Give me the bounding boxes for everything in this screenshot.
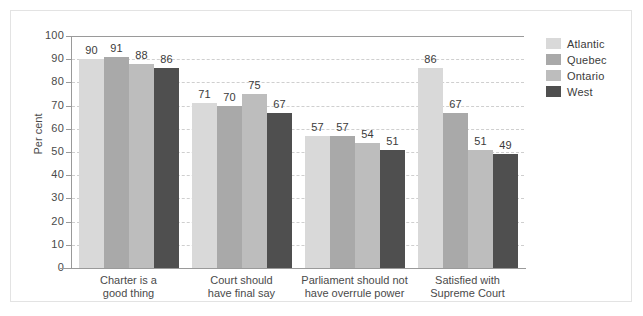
- y-tick-mark-20: [66, 222, 72, 223]
- bar-quebec-4[interactable]: 67: [443, 113, 468, 268]
- bar-group-2: 71707567: [192, 36, 292, 268]
- bar-quebec-1[interactable]: 91: [104, 57, 129, 268]
- x-axis-line: [60, 268, 526, 269]
- legend-label: Quebec: [567, 54, 607, 66]
- bar-value-label: 86: [416, 53, 446, 65]
- y-tick-mark-70: [66, 106, 72, 107]
- bar-west-1[interactable]: 86: [154, 68, 179, 268]
- y-tick-label-0: 0: [30, 261, 64, 273]
- legend-item-west[interactable]: West: [546, 84, 630, 99]
- legend-swatch-icon-west: [546, 86, 561, 97]
- bar-atlantic-1[interactable]: 90: [79, 59, 104, 268]
- bar-ontario-3[interactable]: 54: [355, 143, 380, 268]
- bar-ontario-1[interactable]: 88: [129, 64, 154, 268]
- bar-group-4: 86675149: [418, 36, 518, 268]
- bar-value-label: 67: [441, 98, 471, 110]
- legend-swatch-icon-quebec: [546, 54, 561, 65]
- bar-value-label: 75: [240, 79, 270, 91]
- bar-value-label: 70: [215, 91, 245, 103]
- bar-quebec-2[interactable]: 70: [217, 106, 242, 268]
- bar-group-1: 90918886: [79, 36, 179, 268]
- chart-figure: 1009080706050403020100 Per cent 90918886…: [0, 0, 643, 316]
- bar-atlantic-2[interactable]: 71: [192, 103, 217, 268]
- y-tick-mark-60: [66, 129, 72, 130]
- bar-ontario-4[interactable]: 51: [468, 150, 493, 268]
- bar-value-label: 67: [265, 98, 295, 110]
- y-tick-mark-80: [66, 82, 72, 83]
- y-tick-mark-10: [66, 245, 72, 246]
- bar-atlantic-3[interactable]: 57: [305, 136, 330, 268]
- legend-item-quebec[interactable]: Quebec: [546, 52, 630, 67]
- bar-value-label: 86: [152, 53, 182, 65]
- y-axis-title: Per cent: [32, 94, 44, 174]
- bar-atlantic-4[interactable]: 86: [418, 68, 443, 268]
- legend-label: West: [567, 86, 593, 98]
- bar-value-label: 51: [378, 135, 408, 147]
- legend-label: Ontario: [567, 70, 604, 82]
- y-tick-label-80: 80: [30, 75, 64, 87]
- plot-area: 90918886717075675757545186675149: [72, 36, 524, 268]
- legend-label: Atlantic: [567, 38, 605, 50]
- category-label-4: Satisfied with Supreme Court: [396, 274, 539, 300]
- bar-group-3: 57575451: [305, 36, 405, 268]
- legend: AtlanticQuebecOntarioWest: [546, 36, 630, 100]
- y-tick-label-100: 100: [30, 29, 64, 41]
- y-tick-mark-30: [66, 198, 72, 199]
- y-tick-mark-0: [66, 268, 72, 269]
- bar-west-3[interactable]: 51: [380, 150, 405, 268]
- y-tick-label-30: 30: [30, 191, 64, 203]
- bar-west-2[interactable]: 67: [267, 113, 292, 268]
- legend-swatch-icon-atlantic: [546, 38, 561, 49]
- bar-quebec-3[interactable]: 57: [330, 136, 355, 268]
- y-tick-mark-50: [66, 152, 72, 153]
- y-tick-mark-40: [66, 175, 72, 176]
- bar-value-label: 49: [491, 139, 521, 151]
- y-tick-mark-100: [66, 36, 72, 37]
- legend-item-ontario[interactable]: Ontario: [546, 68, 630, 83]
- legend-swatch-icon-ontario: [546, 70, 561, 81]
- legend-item-atlantic[interactable]: Atlantic: [546, 36, 630, 51]
- y-tick-label-90: 90: [30, 52, 64, 64]
- bar-ontario-2[interactable]: 75: [242, 94, 267, 268]
- bar-west-4[interactable]: 49: [493, 154, 518, 268]
- y-tick-label-20: 20: [30, 215, 64, 227]
- y-tick-mark-90: [66, 59, 72, 60]
- y-tick-label-10: 10: [30, 238, 64, 250]
